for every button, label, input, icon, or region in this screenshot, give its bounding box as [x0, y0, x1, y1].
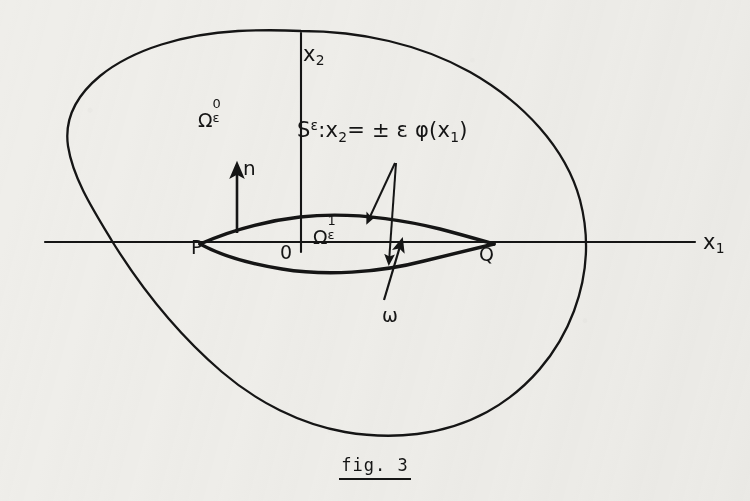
surface-equation-label: Sε:x2= ± ε φ(x1) — [297, 119, 468, 144]
figure-caption: fig. 3 — [0, 455, 750, 475]
surface-leader-upper — [368, 163, 395, 221]
point-label-q: Q — [479, 245, 494, 264]
figure-page: x1 x2 P 0 Q n ω Ω0ε Ω1ε Sε:x2= ± ε φ(x1) — [0, 0, 750, 501]
surface-arg-subscript: 1 — [450, 129, 459, 145]
outer-domain-base: Ω — [198, 109, 213, 131]
thin-domain-upper-boundary — [200, 215, 494, 244]
surface-lhs-subscript: 2 — [338, 129, 347, 145]
x2-axis-label: x2 — [303, 44, 325, 68]
figure-drawing — [0, 0, 750, 501]
x1-axis-label: x1 — [703, 232, 725, 256]
surface-equals: = — [347, 118, 365, 142]
surface-paren-close: ) — [459, 118, 467, 142]
surface-epsilon: ε — [397, 118, 409, 142]
surface-lhs: x — [326, 118, 339, 142]
normal-vector-label: n — [243, 158, 256, 178]
inner-domain-base: Ω — [313, 226, 328, 248]
surface-arg: x — [437, 118, 450, 142]
inner-domain-superscript: 1 — [328, 214, 336, 227]
figure-caption-text: fig. 3 — [339, 455, 410, 480]
outer-domain-subscript: ε — [213, 111, 220, 124]
thin-domain-label: ω — [382, 306, 398, 325]
outer-domain-superscript: 0 — [213, 97, 221, 110]
outer-domain-label: Ω0ε — [198, 106, 225, 131]
origin-label: 0 — [280, 243, 292, 262]
surface-leader-lower — [389, 163, 396, 262]
omega-leader — [384, 243, 401, 300]
inner-domain-subscript: ε — [328, 228, 335, 241]
inner-domain-label: Ω1ε — [313, 223, 340, 248]
thin-domain-lower-boundary — [200, 244, 494, 273]
point-label-p: P — [191, 238, 203, 257]
surface-plusminus: ± — [372, 118, 390, 142]
surface-phi: φ — [415, 118, 429, 142]
surface-symbol: S — [297, 118, 311, 142]
surface-colon: : — [318, 118, 325, 142]
